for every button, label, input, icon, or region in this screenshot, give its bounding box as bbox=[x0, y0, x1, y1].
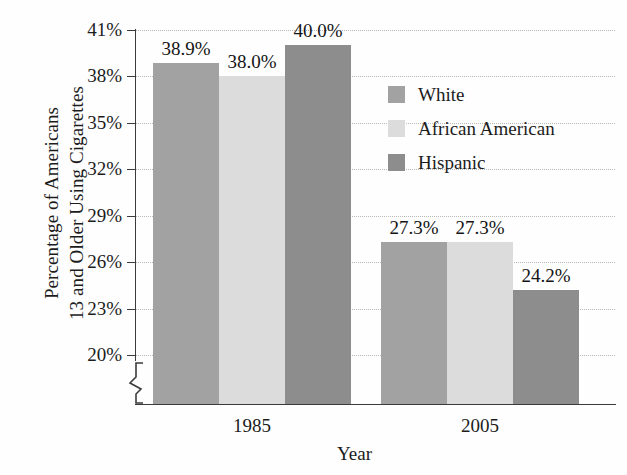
bar-value-label: 40.0% bbox=[277, 21, 359, 40]
x-category-label: 1985 bbox=[133, 415, 371, 437]
bar[interactable] bbox=[513, 290, 579, 404]
bar[interactable] bbox=[447, 242, 513, 404]
bar-chart: Percentage of Americans 13 and Older Usi… bbox=[0, 0, 627, 475]
bar[interactable] bbox=[153, 63, 219, 405]
legend-label-african-american: African American bbox=[418, 119, 555, 138]
bar[interactable] bbox=[381, 242, 447, 404]
y-tick-label: 26% bbox=[48, 252, 122, 271]
legend-label-hispanic: Hispanic bbox=[418, 153, 486, 172]
legend-swatch-hispanic bbox=[388, 154, 405, 171]
bar[interactable] bbox=[219, 76, 285, 404]
y-tick-label: 20% bbox=[48, 345, 122, 364]
legend-label-white: White bbox=[418, 85, 464, 104]
legend-item-white[interactable]: White bbox=[388, 80, 555, 108]
y-tick-label: 35% bbox=[48, 113, 122, 132]
legend-item-african-american[interactable]: African American bbox=[388, 114, 555, 142]
bar-value-label: 38.0% bbox=[211, 52, 293, 71]
bar-value-label: 24.2% bbox=[505, 266, 587, 285]
x-axis-title-text: Year bbox=[337, 443, 372, 464]
y-tick-label: 32% bbox=[48, 159, 122, 178]
y-tick-label: 23% bbox=[48, 299, 122, 318]
y-tick-label: 41% bbox=[48, 20, 122, 39]
legend-item-hispanic[interactable]: Hispanic bbox=[388, 148, 555, 176]
legend-swatch-white bbox=[388, 86, 405, 103]
bar[interactable] bbox=[285, 45, 351, 404]
bar-value-label: 27.3% bbox=[439, 218, 521, 237]
legend: White African American Hispanic bbox=[388, 80, 555, 182]
x-category-label: 2005 bbox=[361, 415, 599, 437]
x-axis-title: Year bbox=[0, 443, 627, 465]
y-tick-label: 38% bbox=[48, 66, 122, 85]
legend-swatch-african-american bbox=[388, 120, 405, 137]
y-tick-label: 29% bbox=[48, 206, 122, 225]
